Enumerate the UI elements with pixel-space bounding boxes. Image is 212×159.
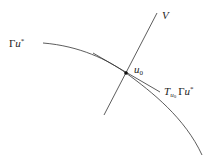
diagram-canvas: Γu* V u0 Tu0Γu* (0, 0, 212, 159)
label-u0: u0 (134, 63, 144, 77)
label-tangent: Tu0Γu* (164, 85, 194, 99)
curve-gamma-u-star (43, 43, 202, 155)
label-v: V (162, 9, 170, 21)
label-curve: Γu* (9, 37, 25, 49)
point-u0 (124, 71, 128, 75)
